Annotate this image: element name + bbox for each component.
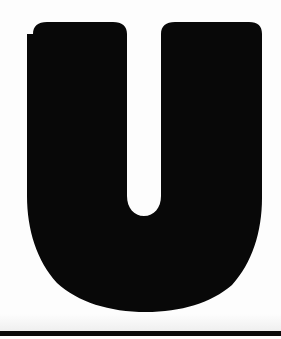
letter-u-glyph [0,0,281,339]
bottom-black-bar [0,331,281,336]
glyph-stage [0,0,281,339]
image-canvas: U [0,0,281,339]
